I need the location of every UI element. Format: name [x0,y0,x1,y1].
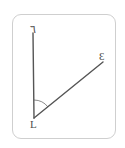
angle-figure [0,0,125,148]
vertex-label: L [30,119,37,130]
angle-arc [34,100,48,107]
ray-vertical [33,33,34,118]
diagram-canvas: ٦ L Ɛ [0,0,125,148]
ray-diagonal [34,62,103,118]
ray-endpoint-label-top: ٦ [30,24,36,35]
ray-endpoint-label-right: Ɛ [99,51,105,62]
